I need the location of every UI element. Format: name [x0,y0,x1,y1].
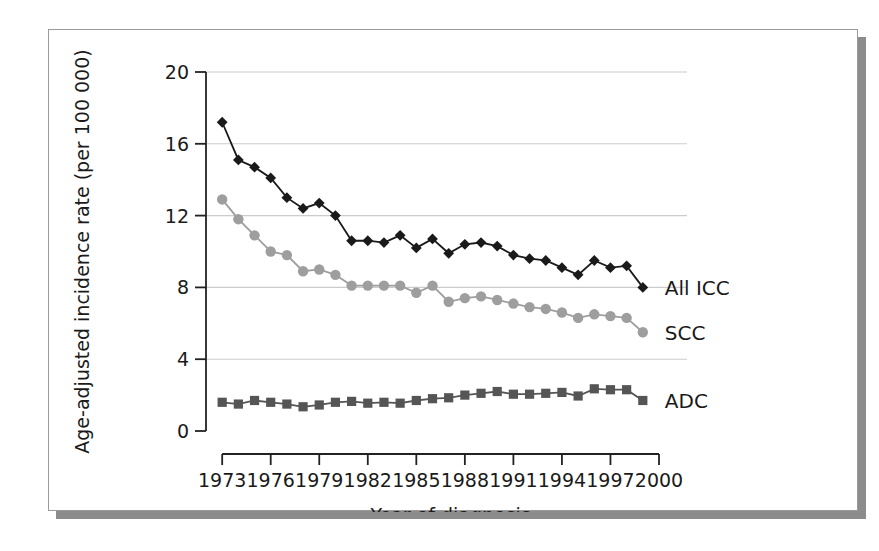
marker-square [525,390,534,399]
y-tick-label: 4 [177,348,189,370]
marker-circle [605,311,615,321]
marker-square [234,399,243,408]
marker-diamond [492,241,503,252]
marker-square [476,389,485,398]
marker-square [363,399,372,408]
marker-circle [249,230,259,240]
marker-square [428,394,437,403]
y-tick-label: 16 [165,133,189,155]
figure-frame: 048121620Age-adjusted incidence rate (pe… [48,29,858,511]
x-tick-label: 1979 [295,469,343,491]
marker-diamond [540,255,551,266]
marker-square [379,398,388,407]
series-line-scc [222,199,643,332]
x-tick-label: 1973 [198,469,246,491]
x-tick-label: 1976 [247,469,295,491]
marker-square [509,390,518,399]
marker-square [493,387,502,396]
marker-circle [363,280,373,290]
x-tick-label: 1982 [344,469,392,491]
marker-square [638,396,647,405]
marker-square [444,393,453,402]
marker-circle [330,270,340,280]
marker-diamond [217,117,228,128]
chart-plot-area: 048121620Age-adjusted incidence rate (pe… [49,30,859,512]
x-tick-label: 1994 [538,469,586,491]
marker-circle [638,327,648,337]
marker-circle [621,313,631,323]
x-tick-label: 1988 [441,469,489,491]
legend-label-all-icc: All ICC [665,276,730,300]
marker-circle [443,297,453,307]
marker-diamond [508,250,519,261]
marker-square [250,396,259,405]
marker-square [574,391,583,400]
y-axis-title: Age-adjusted incidence rate (per 100 000… [71,49,93,453]
x-tick-label: 2000 [635,469,683,491]
marker-diamond [379,237,390,248]
marker-diamond [362,235,373,246]
legend-label-adc: ADC [665,389,708,413]
marker-circle [427,280,437,290]
marker-square [282,399,291,408]
marker-square [396,399,405,408]
marker-circle [476,291,486,301]
marker-circle [314,264,324,274]
marker-square [331,398,340,407]
marker-diamond [476,237,487,248]
marker-square [298,402,307,411]
marker-circle [346,280,356,290]
marker-diamond [605,262,616,273]
marker-circle [379,280,389,290]
marker-diamond [524,253,535,264]
marker-square [218,398,227,407]
figure-canvas: 048121620Age-adjusted incidence rate (pe… [0,0,879,551]
marker-diamond [298,203,309,214]
x-axis-title: Year of diagnosis [369,504,530,512]
marker-square [541,389,550,398]
legend-label-scc: SCC [665,321,706,345]
marker-circle [589,309,599,319]
y-tick-label: 0 [177,420,189,442]
marker-circle [411,288,421,298]
marker-circle [298,266,308,276]
marker-square [266,398,275,407]
marker-square [460,391,469,400]
marker-diamond [233,155,244,166]
marker-circle [508,298,518,308]
marker-circle [541,304,551,314]
series-line-all-icc [222,122,643,287]
x-tick-label: 1991 [489,469,537,491]
marker-square [622,385,631,394]
marker-diamond [249,162,260,173]
marker-square [412,396,421,405]
marker-square [315,400,324,409]
marker-circle [492,295,502,305]
marker-diamond [459,239,470,250]
y-tick-label: 12 [165,205,189,227]
line-chart: 048121620Age-adjusted incidence rate (pe… [49,30,859,512]
marker-circle [282,250,292,260]
x-tick-label: 1997 [586,469,634,491]
marker-circle [524,302,534,312]
marker-circle [557,307,567,317]
marker-circle [395,280,405,290]
marker-square [557,388,566,397]
marker-circle [233,214,243,224]
x-tick-label: 1985 [392,469,440,491]
marker-circle [217,194,227,204]
marker-diamond [557,262,568,273]
marker-square [590,384,599,393]
marker-square [347,397,356,406]
marker-circle [460,293,470,303]
marker-square [606,385,615,394]
marker-diamond [346,235,357,246]
y-tick-label: 8 [177,276,189,298]
marker-circle [266,246,276,256]
marker-circle [573,313,583,323]
y-tick-label: 20 [165,61,189,83]
